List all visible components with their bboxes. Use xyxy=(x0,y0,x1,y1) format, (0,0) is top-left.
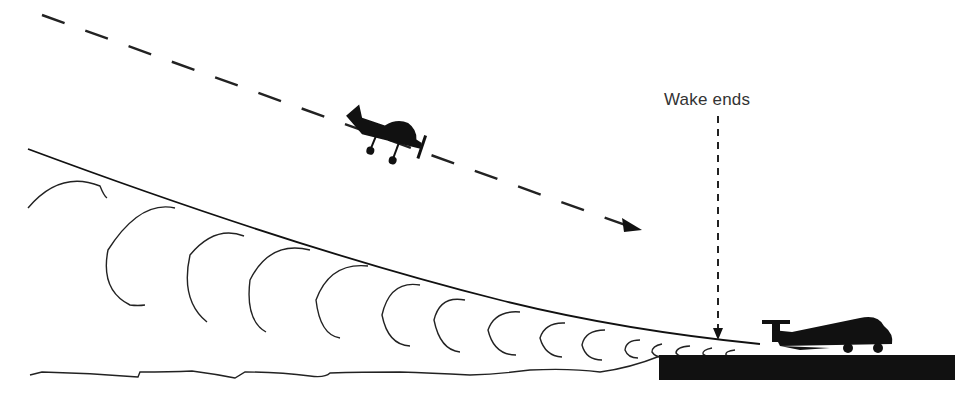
wake-ends-arrow xyxy=(713,116,723,340)
arrowhead-icon xyxy=(622,218,642,232)
landed-aircraft-icon xyxy=(762,317,892,353)
runway xyxy=(659,355,955,380)
diagram-canvas: Wake ends xyxy=(0,0,976,401)
wake-turbulence-illustration xyxy=(0,0,976,401)
approach-path-arrow xyxy=(42,15,642,232)
wake-vortices xyxy=(28,181,740,360)
glide-path-line xyxy=(28,149,760,344)
ground-line xyxy=(30,356,660,378)
wake-ends-label: Wake ends xyxy=(664,90,750,110)
approaching-aircraft-icon xyxy=(337,102,429,170)
